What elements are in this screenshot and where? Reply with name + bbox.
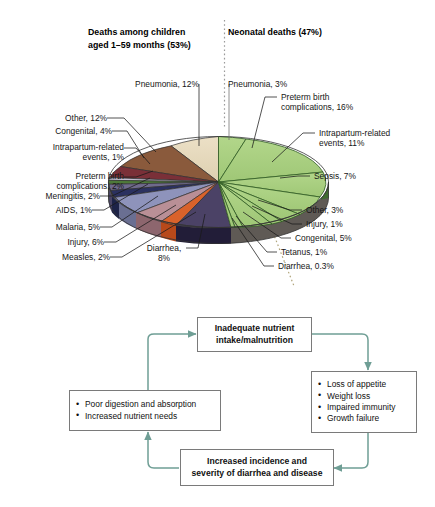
label-pneumonia-12: Pneumonia, 12% (128, 79, 206, 89)
label-measles-2: Measles, 2% (34, 252, 110, 262)
label-congenital-4: Congenital, 4% (22, 126, 112, 136)
label-preterm-2-line2: complications, 2% (6, 181, 124, 191)
label-diarrhea-8-line2: 8% (140, 253, 188, 263)
label-neonatal-pneumonia-3: Pneumonia, 3% (228, 79, 318, 89)
label-intrapartum-1-line2: events, 1% (14, 152, 124, 162)
label-neonatal-injury-1: Injury, 1% (306, 219, 376, 229)
label-intrapartum-1-line1: Intrapartum-related (14, 142, 124, 152)
flow-box-effects: Loss of appetite Weight loss Impaired im… (311, 371, 417, 433)
label-other-12: Other, 12% (27, 113, 107, 123)
label-neonatal-intrapartum-11-line1: Intrapartum-related (319, 128, 435, 138)
label-neonatal-tetanus-1: Tetanus, 1% (281, 247, 361, 257)
list-item: Increased nutrient needs (74, 411, 216, 422)
flow-box-malnutrition: Inadequate nutrient intake/malnutrition (197, 317, 312, 352)
flow-box-effects-list: Loss of appetite Weight loss Impaired im… (316, 379, 412, 425)
arrow-digestion-to-malnutrition (148, 334, 196, 390)
flow-box-disease-text: Increased incidence and severity of diar… (186, 456, 328, 478)
list-item: Growth failure (316, 413, 412, 424)
label-preterm-2-line1: Preterm birth (24, 171, 124, 181)
pie-chart-figure: Deaths among children aged 1–59 months (… (0, 0, 435, 292)
arrow-disease-to-digestion (148, 432, 179, 468)
list-item: Weight loss (316, 391, 412, 402)
arrow-malnutrition-to-effects (311, 334, 368, 370)
label-neonatal-other-3: Other, 3% (306, 205, 376, 215)
arrow-effects-to-disease (334, 432, 368, 468)
label-neonatal-intrapartum-11-line2: events, 11% (319, 138, 429, 148)
label-neonatal-sepsis-7: Sepsis, 7% (314, 171, 394, 181)
list-item: Loss of appetite (316, 379, 412, 390)
flow-box-disease: Increased incidence and severity of diar… (180, 449, 334, 486)
label-diarrhea-8-line1: Diarrhea, (140, 243, 188, 253)
label-neonatal-preterm-16-line2: complications, 16% (281, 102, 399, 112)
label-aids-1: AIDS, 1% (30, 205, 92, 215)
label-malaria-5: Malaria, 5% (24, 222, 100, 232)
label-injury-6: Injury, 6% (38, 237, 104, 247)
list-item: Poor digestion and absorption (74, 399, 216, 410)
label-neonatal-preterm-16-line1: Preterm birth (281, 92, 391, 102)
flow-box-digestion: Poor digestion and absorption Increased … (69, 390, 221, 431)
label-neonatal-congenital-5: Congenital, 5% (295, 233, 385, 243)
label-meningitis-2: Meningitis, 2% (20, 191, 100, 201)
list-item: Impaired immunity (316, 402, 412, 413)
malnutrition-cycle-diagram: Inadequate nutrient intake/malnutrition … (0, 292, 435, 507)
label-neonatal-diarrhea-03: Diarrhea, 0.3% (278, 261, 368, 271)
flow-box-digestion-list: Poor digestion and absorption Increased … (74, 399, 216, 422)
flow-box-malnutrition-text: Inadequate nutrient intake/malnutrition (203, 323, 306, 345)
